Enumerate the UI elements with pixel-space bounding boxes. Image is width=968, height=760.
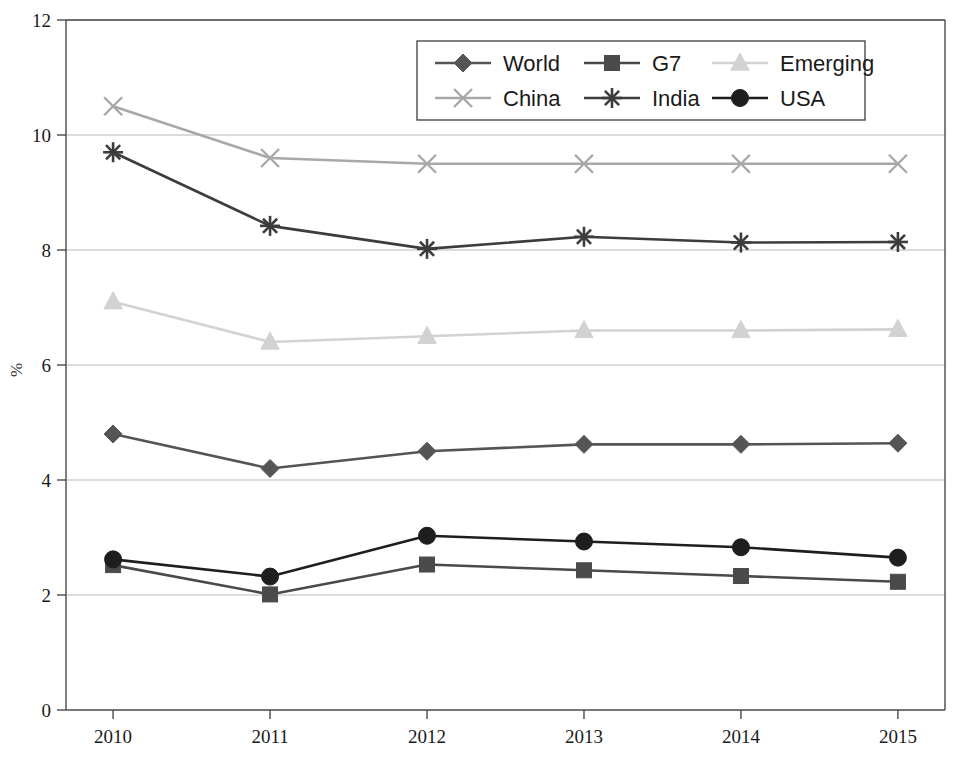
data-point-marker xyxy=(576,563,591,578)
data-point-marker xyxy=(420,557,435,572)
legend-marker xyxy=(605,56,620,71)
series-india xyxy=(103,142,908,259)
series-line xyxy=(113,302,898,342)
legend-marker xyxy=(602,88,622,108)
y-tick-label: 8 xyxy=(42,240,52,261)
y-tick-label: 4 xyxy=(42,470,52,491)
legend-label: Emerging xyxy=(780,51,874,76)
x-tick-label: 2014 xyxy=(722,726,761,747)
data-point-marker xyxy=(105,551,122,568)
legend-label: India xyxy=(652,86,700,111)
data-point-marker xyxy=(889,549,906,566)
y-tick-label: 2 xyxy=(42,585,52,606)
x-tick-label: 2010 xyxy=(94,726,132,747)
data-point-marker xyxy=(575,435,593,453)
y-tick-label: 12 xyxy=(32,10,51,31)
data-point-marker xyxy=(732,539,749,556)
series-line xyxy=(113,565,898,595)
legend-label: World xyxy=(503,51,560,76)
data-point-marker xyxy=(731,233,751,253)
data-point-marker xyxy=(263,587,278,602)
y-axis-title: % xyxy=(7,363,26,377)
series-line xyxy=(113,536,898,577)
data-point-marker xyxy=(575,533,592,550)
series-line xyxy=(113,434,898,469)
data-point-marker xyxy=(732,321,750,338)
data-point-marker xyxy=(889,319,907,336)
x-tick-label: 2011 xyxy=(251,726,288,747)
series-world xyxy=(104,425,907,478)
legend-marker xyxy=(732,90,749,107)
legend-label: G7 xyxy=(652,51,681,76)
series-layer xyxy=(103,97,908,602)
data-point-marker xyxy=(104,97,122,115)
legend-label: USA xyxy=(780,86,826,111)
data-point-marker xyxy=(733,569,748,584)
data-point-marker xyxy=(575,321,593,338)
data-point-marker xyxy=(419,527,436,544)
data-point-marker xyxy=(574,227,594,247)
data-point-marker xyxy=(418,442,436,460)
data-point-marker xyxy=(889,434,907,452)
line-chart: 024681012 201020112012201320142015 % Wor… xyxy=(0,0,968,760)
data-point-marker xyxy=(890,574,905,589)
data-point-marker xyxy=(417,239,437,259)
x-axis-ticks: 201020112012201320142015 xyxy=(94,710,917,747)
y-axis-ticks: 024681012 xyxy=(32,10,66,721)
x-tick-label: 2013 xyxy=(565,726,603,747)
data-point-marker xyxy=(732,435,750,453)
data-point-marker xyxy=(260,216,280,236)
chart-figure: 024681012 201020112012201320142015 % Wor… xyxy=(0,0,968,760)
series-line xyxy=(113,152,898,249)
y-tick-label: 6 xyxy=(42,355,52,376)
data-point-marker xyxy=(103,142,123,162)
data-point-marker xyxy=(104,292,122,309)
data-point-marker xyxy=(261,460,279,478)
x-tick-label: 2015 xyxy=(879,726,917,747)
data-point-marker xyxy=(104,425,122,443)
data-point-marker xyxy=(262,568,279,585)
y-axis-title-text: % xyxy=(7,363,26,377)
x-tick-label: 2012 xyxy=(408,726,446,747)
y-tick-label: 0 xyxy=(42,700,52,721)
legend-label: China xyxy=(503,86,561,111)
series-emerging xyxy=(104,292,907,349)
chart-legend[interactable]: WorldG7EmergingChinaIndiaUSA xyxy=(417,41,874,120)
data-point-marker xyxy=(888,232,908,252)
y-tick-label: 10 xyxy=(32,125,51,146)
